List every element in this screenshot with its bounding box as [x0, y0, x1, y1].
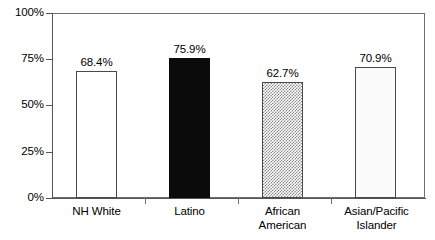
y-tick-mark-75: [46, 59, 52, 60]
value-label-african-american: 62.7%: [252, 67, 313, 79]
x-axis-label-latino: Latino: [149, 204, 230, 218]
bar-nh-white: [76, 71, 117, 198]
bar-african-american: [262, 82, 303, 198]
y-tick-label-100: 100%: [0, 7, 44, 19]
bar-latino: [169, 58, 210, 198]
y-tick-label-25: 25%: [0, 146, 44, 158]
y-tick-label-25-wrap: 25%: [0, 146, 44, 158]
value-label-latino: 75.9%: [159, 43, 220, 55]
y-tick-label-0-wrap: 0%: [0, 192, 44, 204]
x-axis-label-african-american-line1: African: [265, 205, 300, 217]
y-tick-mark-50: [46, 105, 52, 106]
x-axis-label-african-american: African American: [242, 204, 323, 232]
x-axis-line: [52, 198, 426, 199]
value-label-asian-pacific-islander: 70.9%: [345, 52, 406, 64]
x-axis-label-asian-pacific-islander-line2: Islander: [333, 218, 420, 232]
y-tick-label-100-wrap: 100%: [0, 7, 44, 19]
y-tick-label-75: 75%: [0, 53, 44, 65]
x-axis-separator-1: [145, 198, 146, 204]
x-axis-label-asian-pacific-islander: Asian/Pacific Islander: [333, 204, 420, 232]
y-tick-mark-25: [46, 152, 52, 153]
y-tick-label-0: 0%: [0, 192, 44, 204]
bar-chart: 100% 75% 50% 25% 0% 68.4% 75.9% 62.7% 70…: [0, 0, 435, 240]
y-tick-label-50: 50%: [0, 99, 44, 111]
value-label-nh-white: 68.4%: [66, 56, 127, 68]
y-tick-label-50-wrap: 50%: [0, 99, 44, 111]
x-axis-label-latino-line1: Latino: [174, 205, 205, 217]
x-axis-label-nh-white: NH White: [56, 204, 137, 218]
x-axis-separator-3: [331, 198, 332, 204]
x-axis-label-nh-white-line1: NH White: [72, 205, 120, 217]
y-tick-label-75-wrap: 75%: [0, 53, 44, 65]
bar-asian-pacific-islander: [355, 67, 396, 198]
x-axis-label-asian-pacific-islander-line1: Asian/Pacific: [344, 205, 409, 217]
x-axis-label-african-american-line2: American: [242, 218, 323, 232]
y-tick-mark-100: [46, 13, 52, 14]
x-axis-separator-2: [238, 198, 239, 204]
y-axis-line: [52, 13, 53, 199]
